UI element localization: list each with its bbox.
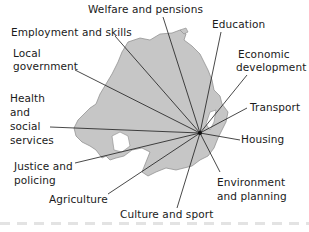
footer-dash (221, 222, 231, 225)
footer-dash (34, 222, 44, 225)
footer-dash (102, 222, 112, 225)
label-transport: Transport (250, 101, 300, 114)
label-environment-2: and planning (217, 190, 287, 203)
hub-point (198, 131, 202, 135)
label-agriculture: Agriculture (49, 193, 108, 206)
label-education: Education (212, 18, 265, 31)
label-local-gov-1: Local (13, 47, 41, 60)
ni-responsibilities-diagram: Welfare and pensionsEmployment and skill… (0, 0, 309, 232)
land-shape (74, 30, 228, 176)
footer-dash (136, 222, 146, 225)
footer-dash (17, 222, 27, 225)
label-employment: Employment and skills (11, 26, 132, 39)
label-environment-1: Environment (217, 176, 285, 189)
label-culture: Culture and sport (120, 208, 213, 221)
label-economic-1: Economic (238, 48, 290, 61)
footer-dash (289, 222, 299, 225)
footer-dash (119, 222, 129, 225)
label-welfare: Welfare and pensions (88, 3, 203, 16)
label-justice-2: policing (14, 174, 56, 187)
footer-dash (187, 222, 197, 225)
footer-dash (51, 222, 61, 225)
label-housing: Housing (241, 133, 284, 146)
footer-dash (0, 222, 10, 225)
footer-dash (306, 222, 309, 225)
footer-dash (238, 222, 248, 225)
footer-dash (153, 222, 163, 225)
footer-dash (272, 222, 282, 225)
label-health-2: and (10, 106, 30, 119)
label-local-gov-2: government (13, 60, 78, 73)
label-justice-1: Justice and (14, 160, 73, 173)
label-health-1: Health (10, 92, 45, 105)
label-health-3: social (10, 120, 41, 133)
footer-dash (85, 222, 95, 225)
label-health-4: services (10, 134, 54, 147)
label-economic-2: development (236, 61, 306, 74)
footer-dash (204, 222, 214, 225)
footer-dash (170, 222, 180, 225)
footer-dash (68, 222, 78, 225)
footer-dash (255, 222, 265, 225)
